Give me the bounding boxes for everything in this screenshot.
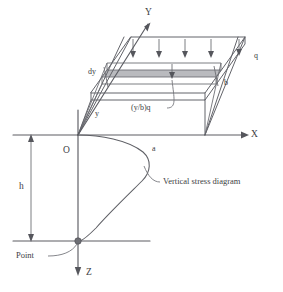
origin-label: O	[63, 146, 70, 156]
x-axis-arrowhead	[241, 132, 249, 139]
load-arrowhead-4	[208, 51, 214, 58]
strip-width-label: dy	[88, 68, 96, 76]
y-axis-line	[78, 24, 148, 135]
stress-diagram-caption: Vertical stress diagram	[163, 177, 240, 186]
dy-strip-band	[102, 70, 221, 77]
x-axis-group	[13, 132, 249, 139]
load-arrowhead-3	[182, 51, 188, 58]
y-axis-label: Y	[145, 8, 152, 18]
load-arrowhead-2	[156, 51, 162, 58]
x-axis-label: X	[251, 130, 258, 140]
loaded-area-front-face	[91, 93, 205, 100]
y-axis-group	[78, 23, 151, 136]
perspective-edges-left	[78, 37, 131, 135]
curve-peak-label: a	[152, 145, 156, 153]
vertical-stress-curve	[78, 135, 149, 241]
point-label: Point	[16, 251, 34, 260]
strip-distance-label: y	[95, 110, 99, 118]
varying-load-expression-label: (y/b)q	[131, 104, 151, 112]
z-axis-arrowhead	[75, 267, 81, 276]
point-dot	[75, 238, 81, 244]
dy-strip-upper-guide	[107, 63, 221, 70]
dy-strip	[102, 63, 221, 84]
figure-canvas	[0, 0, 283, 292]
load-intensity-label: q	[254, 52, 258, 60]
depth-label: h	[19, 182, 24, 192]
point-leader-line	[48, 244, 77, 256]
stress-caption-leader-line	[144, 166, 160, 182]
load-arrows-q	[130, 39, 242, 58]
dy-strip-lower-edge	[102, 77, 216, 84]
total-width-label: b	[224, 79, 228, 87]
edge-origin-to-area-corner-far	[78, 37, 131, 135]
vertical-stress-figure: Y X Z O q dy y b (y/b)q h a Vertical str…	[0, 0, 283, 292]
z-axis-label: Z	[86, 268, 92, 278]
depth-dimension-h	[28, 134, 34, 242]
y-axis-arrowhead	[144, 23, 150, 32]
